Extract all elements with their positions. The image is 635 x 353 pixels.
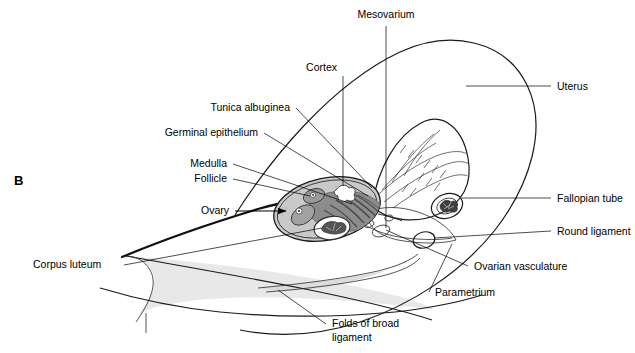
uterine-fundus [372,119,474,220]
ovary-uterus-diagram: B Mesovarium Cortex Tunica albuginea Ger… [0,0,635,353]
leader-tunica-albuginea [296,108,372,188]
fallopian-tube-lumen [440,200,458,212]
leader-round-ligament [434,231,551,238]
fundus-hatching [372,130,474,219]
follicle-nucleus [312,194,314,196]
round-ligament-cross-section [411,230,436,251]
label-folds-broad-ligament-line1: Folds of broad [332,317,399,329]
label-folds-broad-ligament-line2: ligament [332,331,372,343]
label-uterus: Uterus [557,80,588,92]
leader-corpus-luteum [124,228,322,265]
ovary-cross-section [268,167,402,250]
label-round-ligament: Round ligament [557,225,631,237]
label-fallopian-tube: Fallopian tube [557,192,623,204]
round-ligament-outline [411,230,436,251]
label-cortex: Cortex [306,61,338,73]
fallopian-tube-cross-section [428,189,466,222]
panel-label: B [14,173,23,188]
leader-ovarian-vasculature [386,230,468,266]
label-follicle: Follicle [194,172,227,184]
label-mesovarium: Mesovarium [357,8,414,20]
label-tunica-albuginea: Tunica albuginea [210,101,290,113]
label-ovarian-vasculature: Ovarian vasculature [474,260,568,272]
anatomy-figure-panel-b: B Mesovarium Cortex Tunica albuginea Ger… [0,0,635,353]
label-corpus-luteum: Corpus luteum [33,258,102,270]
label-parametrium: Parametrium [435,286,495,298]
label-medulla: Medulla [190,157,227,169]
leader-parametrium [429,244,452,292]
label-germinal-epithelium: Germinal epithelium [165,126,259,138]
secondary-follicle-nucleus [298,210,300,212]
label-ovary: Ovary [201,204,230,216]
